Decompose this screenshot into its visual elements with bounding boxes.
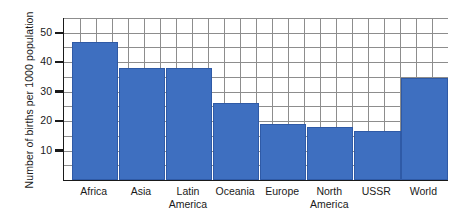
y-tick-mark [55, 149, 64, 151]
plot-area: 1020304050 [63, 18, 448, 181]
bar [166, 68, 212, 180]
x-axis-label-line1: World [410, 185, 437, 197]
x-axis-label-line2: America [164, 198, 211, 211]
x-axis-label: Oceania [212, 185, 259, 198]
y-tick-mark [55, 61, 64, 63]
y-tick-mark [55, 32, 64, 34]
bar [307, 127, 353, 180]
x-axis-label-line1: Latin [177, 185, 200, 197]
x-axis-label-line2: America [306, 198, 353, 211]
y-tick-label: 20 [22, 115, 52, 126]
x-axis-labels: AfricaAsiaLatinAmericaOceaniaEuropeNorth… [63, 185, 448, 223]
x-axis-label-line1: Oceania [215, 185, 254, 197]
x-axis-label: Asia [117, 185, 164, 198]
bar [213, 103, 259, 180]
y-tick-mark [55, 90, 64, 92]
x-axis-label: LatinAmerica [164, 185, 211, 211]
bar-chart-figure: Number of births per 1000 population 102… [0, 0, 466, 224]
bars-layer [64, 18, 448, 180]
x-axis-label: USSR [353, 185, 400, 198]
x-axis-label: Europe [259, 185, 306, 198]
bar [260, 124, 306, 180]
bar [72, 42, 118, 180]
bar [401, 78, 447, 180]
x-axis-label-line1: Europe [265, 185, 299, 197]
x-axis-label-line1: Asia [131, 185, 151, 197]
x-axis-label: NorthAmerica [306, 185, 353, 211]
x-axis-label-line1: Africa [80, 185, 107, 197]
y-tick-label: 10 [22, 145, 52, 156]
y-tick-label: 30 [22, 86, 52, 97]
x-axis-label: Africa [70, 185, 117, 198]
bar [354, 131, 400, 180]
y-tick-label: 50 [22, 27, 52, 38]
x-axis-label: World [400, 185, 447, 198]
y-tick-label: 40 [22, 56, 52, 67]
bar [119, 68, 165, 180]
y-tick-mark [55, 120, 64, 122]
x-axis-label-line1: USSR [362, 185, 391, 197]
x-axis-label-line1: North [316, 185, 342, 197]
